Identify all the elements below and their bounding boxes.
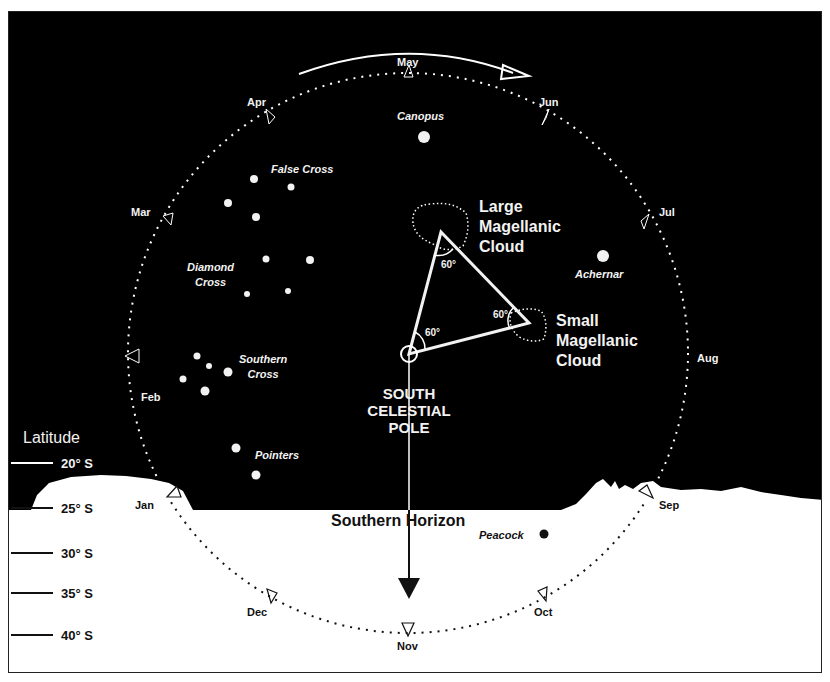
- label-southern-cross: Southern Cross: [239, 352, 287, 382]
- month-jun: Jun: [539, 96, 559, 108]
- month-may: May: [397, 56, 418, 68]
- latitude-heading: Latitude: [23, 429, 80, 447]
- label-southern-horizon: Southern Horizon: [331, 512, 465, 530]
- label-peacock: Peacock: [479, 529, 524, 541]
- latitude-40s: 40° S: [61, 628, 93, 643]
- month-dec: Dec: [247, 606, 267, 618]
- label-achernar: Achernar: [575, 268, 623, 280]
- label-pointers: Pointers: [255, 449, 299, 461]
- label-small-magellanic-cloud: Small Magellanic Cloud: [556, 311, 638, 371]
- month-jan: Jan: [135, 499, 154, 511]
- latitude-30s: 30° S: [61, 546, 93, 561]
- label-large-magellanic-cloud: Large Magellanic Cloud: [479, 197, 561, 257]
- month-nov: Nov: [397, 640, 418, 652]
- diagram-frame: May Apr Jun Mar Jul Aug Feb Jan Sep Dec …: [8, 11, 822, 673]
- angle-lmc: 60°: [441, 259, 456, 270]
- label-false-cross: False Cross: [271, 163, 333, 175]
- month-oct: Oct: [534, 606, 552, 618]
- month-jul: Jul: [659, 206, 675, 218]
- month-sep: Sep: [659, 499, 679, 511]
- label-diamond-cross: Diamond Cross: [187, 260, 234, 290]
- latitude-35s: 35° S: [61, 586, 93, 601]
- label-south-celestial-pole: SOUTH CELESTIAL POLE: [351, 385, 467, 436]
- label-canopus: Canopus: [397, 110, 444, 122]
- angle-scp: 60°: [425, 327, 440, 338]
- month-feb: Feb: [141, 391, 161, 403]
- angle-smc: 60°: [493, 309, 508, 320]
- latitude-25s: 25° S: [61, 501, 93, 516]
- month-apr: Apr: [247, 96, 266, 108]
- month-aug: Aug: [697, 352, 718, 364]
- latitude-20s: 20° S: [61, 456, 93, 471]
- month-mar: Mar: [131, 206, 151, 218]
- peacock-star: [540, 530, 549, 539]
